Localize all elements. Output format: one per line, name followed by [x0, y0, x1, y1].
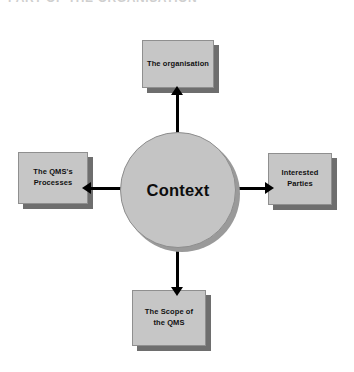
node-label-processes: The QMS's Processes	[30, 167, 75, 189]
node-label-interested-line2: Parties	[287, 179, 313, 188]
node-label-processes-line1: The QMS's	[33, 167, 72, 176]
arrow-right-icon	[265, 182, 274, 194]
node-label-scope: The Scope of the QMS	[142, 307, 196, 329]
node-box-organisation: The organisation	[142, 40, 214, 88]
arrow-up-icon	[171, 86, 183, 95]
node-box-interested-parties: Interested Parties	[268, 153, 332, 205]
diagram-canvas: PART OF THE ORGANISATION The organisatio…	[0, 0, 354, 372]
connector-line-organisation	[176, 92, 179, 136]
node-label-organisation: The organisation	[144, 59, 212, 70]
arrow-down-icon	[171, 287, 183, 296]
connector-line-scope	[176, 244, 179, 290]
node-box-processes: The QMS's Processes	[18, 152, 88, 204]
context-label: Context	[147, 181, 210, 200]
node-label-interested-parties: Interested Parties	[279, 168, 322, 190]
context-circle: Context	[120, 132, 236, 248]
page-heading: PART OF THE ORGANISATION	[8, 0, 248, 5]
node-label-scope-line2: the QMS	[153, 318, 184, 327]
node-label-interested-line1: Interested	[282, 168, 319, 177]
node-label-scope-line1: The Scope of	[145, 307, 193, 316]
arrow-left-icon	[82, 182, 91, 194]
node-label-processes-line2: Processes	[34, 178, 72, 187]
node-box-scope: The Scope of the QMS	[132, 290, 206, 346]
